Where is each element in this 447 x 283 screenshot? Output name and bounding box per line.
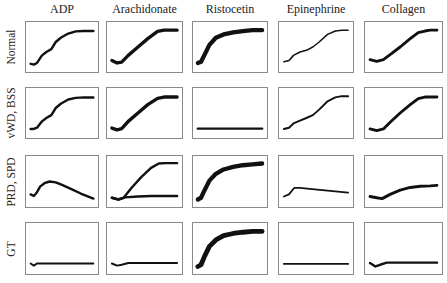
aggregation-trace-plot [193, 88, 267, 138]
panel-vwd-bss-ristocetin [192, 87, 268, 139]
aggregation-curve [370, 185, 437, 198]
aggregation-curve [198, 164, 262, 200]
panel-vwd-bss-epinephrine [278, 87, 354, 139]
aggregation-curve [112, 196, 177, 199]
panel-gt-adp [25, 222, 99, 275]
aggregation-trace-plot [365, 22, 442, 72]
row-label-prd-spd: PRD, SPD [2, 155, 20, 208]
aggregation-trace-plot [279, 223, 353, 274]
panel-gt-epinephrine [278, 222, 354, 275]
aggregation-curve [284, 188, 348, 197]
aggregation-trace-plot [26, 22, 98, 72]
panel-normal-arachidonate [106, 21, 183, 73]
panel-gt-collagen [364, 222, 443, 275]
aggregation-trace-plot [26, 88, 98, 138]
row-label-text: vWD, BSS [5, 87, 17, 138]
aggregation-trace-plot [365, 156, 442, 207]
aggregation-trace-plot [107, 88, 182, 138]
row-label-text: GT [5, 241, 17, 256]
aggregation-trace-plot [107, 223, 182, 274]
panel-vwd-bss-adp [25, 87, 99, 139]
panel-normal-epinephrine [278, 21, 354, 73]
aggregation-curve [370, 263, 437, 267]
aggregation-curve [31, 31, 94, 65]
aggregation-curve [370, 30, 437, 61]
row-label-normal: Normal [2, 21, 20, 73]
aggregation-curve [284, 96, 348, 129]
panel-prd-spd-ristocetin [192, 155, 268, 208]
column-title-arachidonate: Arachidonate [106, 2, 183, 17]
aggregation-curve [112, 30, 177, 63]
aggregation-trace-plot [107, 22, 182, 72]
aggregation-curve [31, 182, 94, 199]
column-title-collagen: Collagen [364, 2, 443, 17]
panel-normal-ristocetin [192, 21, 268, 73]
aggregation-curve [31, 97, 94, 129]
aggregation-trace-plot [365, 223, 442, 274]
aggregation-curve [31, 264, 94, 266]
panel-prd-spd-epinephrine [278, 155, 354, 208]
panel-gt-arachidonate [106, 222, 183, 275]
aggregation-trace-plot [107, 156, 182, 207]
aggregation-trace-plot [279, 156, 353, 207]
panel-normal-collagen [364, 21, 443, 73]
aggregation-curve [198, 30, 262, 63]
aggregation-curve [112, 263, 177, 266]
column-title-ristocetin: Ristocetin [192, 2, 268, 17]
panel-prd-spd-collagen [364, 155, 443, 208]
panel-prd-spd-arachidonate [106, 155, 183, 208]
aggregation-trace-plot [26, 156, 98, 207]
row-label-gt: GT [2, 222, 20, 275]
aggregation-curve [112, 97, 177, 130]
row-label-text: PRD, SPD [5, 157, 17, 206]
aggregation-trace-plot [279, 22, 353, 72]
column-title-epinephrine: Epinephrine [278, 2, 354, 17]
panel-vwd-bss-collagen [364, 87, 443, 139]
aggregation-curve [112, 163, 177, 199]
aggregation-trace-plot [365, 88, 442, 138]
aggregation-curve [370, 97, 437, 131]
column-title-adp: ADP [25, 2, 99, 17]
panel-prd-spd-adp [25, 155, 99, 208]
aggregation-trace-plot [193, 22, 267, 72]
aggregation-trace-plot [26, 223, 98, 274]
panel-normal-adp [25, 21, 99, 73]
aggregation-trace-plot [279, 88, 353, 138]
aggregation-curve [198, 231, 262, 266]
row-label-text: Normal [5, 29, 17, 64]
panel-gt-ristocetin [192, 222, 268, 275]
aggregation-curve [284, 30, 348, 62]
panel-vwd-bss-arachidonate [106, 87, 183, 139]
row-label-vwd-bss: vWD, BSS [2, 87, 20, 139]
aggregation-trace-plot [193, 156, 267, 207]
aggregation-trace-plot [193, 223, 267, 274]
